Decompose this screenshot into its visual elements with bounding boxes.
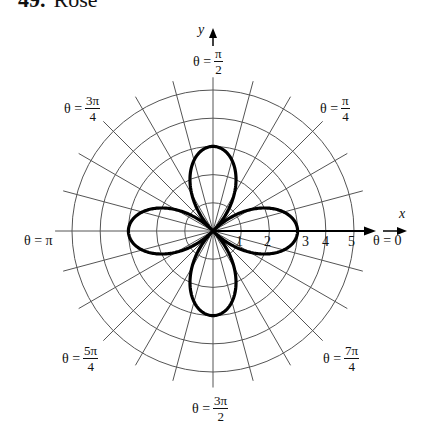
theta-prefix: θ = bbox=[373, 233, 391, 249]
angle-label-pi-over-2: θ = π2 bbox=[193, 47, 223, 76]
angle-label-5pi-over-4: θ = 5π4 bbox=[62, 344, 98, 373]
denominator: 2 bbox=[215, 62, 222, 76]
denominator: 4 bbox=[348, 359, 355, 373]
theta-prefix: θ = bbox=[192, 401, 210, 417]
fraction: 5π4 bbox=[83, 344, 98, 373]
angle-label-pi-over-4: θ = π4 bbox=[320, 94, 350, 123]
angle-label-7pi-over-4: θ = 7π4 bbox=[323, 344, 359, 373]
tick-3: 3 bbox=[302, 234, 309, 250]
axes bbox=[209, 28, 407, 236]
fraction: π2 bbox=[214, 47, 223, 76]
denominator: 2 bbox=[217, 409, 224, 423]
grid-radial-line bbox=[213, 231, 253, 381]
y-direction-arrow-icon bbox=[209, 28, 217, 38]
angle-label-0: θ = 0 bbox=[373, 233, 402, 249]
theta-prefix: θ = bbox=[320, 101, 338, 117]
theta-prefix: θ = bbox=[24, 233, 42, 249]
x-axis-label: x bbox=[399, 206, 405, 222]
polar-grid bbox=[55, 77, 363, 387]
theta-prefix: θ = bbox=[193, 54, 211, 70]
grid-radial-line bbox=[103, 121, 213, 231]
tick-5: 5 bbox=[348, 234, 355, 250]
denominator: 4 bbox=[87, 359, 94, 373]
numerator: 3π bbox=[213, 394, 228, 409]
y-axis-label: y bbox=[198, 22, 204, 38]
angle-label-3pi-over-4: θ = 3π4 bbox=[64, 94, 100, 123]
grid-radial-line bbox=[213, 191, 363, 231]
theta-prefix: θ = bbox=[62, 351, 80, 367]
fraction: π4 bbox=[341, 94, 350, 123]
numerator: 5π bbox=[83, 344, 98, 359]
angle-value: π bbox=[46, 233, 53, 249]
fraction: 3π2 bbox=[213, 394, 228, 423]
tick-4: 4 bbox=[322, 234, 329, 250]
fraction: 7π4 bbox=[344, 344, 359, 373]
angle-value: 0 bbox=[395, 233, 402, 249]
tick-1: 1 bbox=[236, 234, 243, 250]
tick-2: 2 bbox=[264, 234, 271, 250]
denominator: 4 bbox=[342, 109, 349, 123]
grid-radial-line bbox=[63, 191, 213, 231]
numerator: π bbox=[214, 47, 223, 62]
numerator: 7π bbox=[344, 344, 359, 359]
angle-label-pi: θ = π bbox=[24, 233, 53, 249]
grid-radial-line bbox=[63, 231, 213, 271]
grid-radial-line bbox=[213, 81, 253, 231]
denominator: 4 bbox=[89, 109, 96, 123]
theta-prefix: θ = bbox=[64, 101, 82, 117]
angle-label-3pi-over-2: θ = 3π2 bbox=[192, 394, 228, 423]
grid-radial-line bbox=[173, 81, 213, 231]
numerator: π bbox=[341, 94, 350, 109]
grid-radial-line bbox=[213, 121, 323, 231]
fraction: 3π4 bbox=[85, 94, 100, 123]
theta-prefix: θ = bbox=[323, 351, 341, 367]
numerator: 3π bbox=[85, 94, 100, 109]
grid-radial-line bbox=[103, 231, 213, 341]
grid-radial-line bbox=[173, 231, 213, 381]
